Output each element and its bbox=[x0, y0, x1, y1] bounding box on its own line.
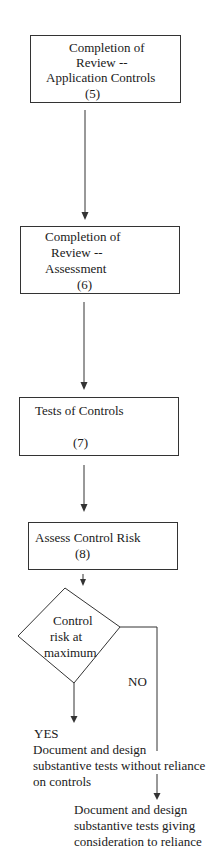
outcome-no-line1: Document and design bbox=[74, 802, 187, 818]
outcome-no-line2: substantive tests giving bbox=[74, 818, 195, 834]
node-step5-line1: Completion of bbox=[69, 40, 144, 56]
outcome-yes-line1: Document and design bbox=[33, 742, 146, 758]
arrowhead-icon bbox=[82, 212, 89, 220]
arrowhead-icon bbox=[81, 382, 88, 390]
arrowhead-icon bbox=[71, 716, 78, 723]
node-step5-line3: Application Controls bbox=[46, 70, 155, 86]
node-step6-line3: Assessment bbox=[45, 261, 106, 277]
outcome-no-line3: consideration to reliance bbox=[74, 834, 202, 846]
node-step6-line4: (6) bbox=[77, 277, 92, 293]
no-label: NO bbox=[128, 674, 147, 690]
node-step6-line1: Completion of bbox=[45, 229, 120, 245]
node-step7-line2: (7) bbox=[73, 435, 88, 451]
node-step5-line4: (5) bbox=[85, 86, 100, 102]
arrowhead-icon bbox=[80, 579, 86, 586]
node-step7-line1: Tests of Controls bbox=[35, 403, 124, 419]
yes-label: YES bbox=[34, 726, 59, 742]
arrowhead-icon bbox=[154, 793, 161, 800]
arrowhead-icon bbox=[81, 504, 88, 512]
node-step8-line2: (8) bbox=[75, 546, 90, 562]
decision-line3: maximum bbox=[44, 645, 97, 661]
outcome-yes-line3: on controls bbox=[33, 774, 91, 790]
node-step8-line1: Assess Control Risk bbox=[35, 530, 140, 546]
decision-line1: Control bbox=[53, 613, 93, 629]
outcome-yes-line2: substantive tests without reliance bbox=[33, 758, 205, 774]
node-step6-line2: Review -- bbox=[51, 245, 103, 261]
decision-line2: risk at bbox=[50, 629, 82, 645]
node-step5-line2: Review -- bbox=[76, 55, 128, 71]
